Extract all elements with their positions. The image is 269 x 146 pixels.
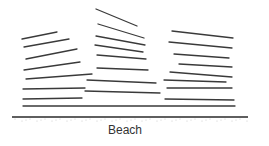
wave-crest-line xyxy=(26,74,92,79)
wave-crest-line xyxy=(179,64,232,67)
wave-crest-line xyxy=(172,31,233,38)
sand-texture xyxy=(15,119,248,122)
wave-crest-line xyxy=(26,49,77,59)
wave-crest-line xyxy=(87,80,156,83)
wave-crest-line xyxy=(97,68,148,70)
wave-crest-line xyxy=(169,42,232,48)
wave-crest-line xyxy=(170,72,232,77)
wave-crest-line xyxy=(174,54,229,58)
wave-crest-line xyxy=(97,55,146,59)
wave-crest-line xyxy=(23,98,82,99)
wave-group-left xyxy=(22,32,92,99)
wave-crest-line xyxy=(165,99,234,100)
wave-crest-line xyxy=(24,39,69,47)
wave-crest-line xyxy=(24,62,80,70)
wave-crest-line xyxy=(85,91,160,93)
wave-crest-line xyxy=(23,88,85,89)
wave-group-right xyxy=(164,31,234,100)
wave-crest-lines xyxy=(22,9,235,106)
wave-crest-line xyxy=(22,32,57,39)
wave-group-middle xyxy=(85,9,160,93)
wave-crest-line xyxy=(96,36,145,45)
wave-crest-line xyxy=(164,80,226,82)
wave-crest-line xyxy=(95,45,143,52)
wave-crest-line xyxy=(96,9,137,26)
beach-label: Beach xyxy=(0,123,250,137)
